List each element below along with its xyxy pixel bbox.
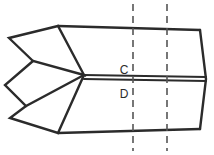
technical-diagram: C D <box>0 0 214 155</box>
diagram-canvas: C D <box>0 0 214 155</box>
label-c: C <box>120 63 129 77</box>
label-d: D <box>120 87 129 101</box>
